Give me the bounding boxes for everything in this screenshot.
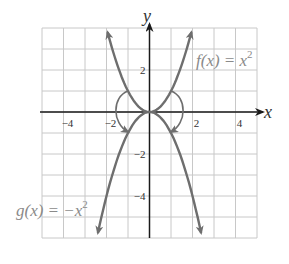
x-tick-label: 4: [237, 117, 243, 129]
x-axis-label: x: [263, 102, 272, 122]
x-tick-label: 2: [194, 117, 200, 129]
chart: −4−2242−2−4 x y f(x) = x2 g(x) = −x2: [0, 0, 289, 264]
y-tick-label: −2: [134, 148, 146, 160]
y-tick-label: 2: [140, 64, 146, 76]
y-tick-label: −4: [134, 190, 146, 202]
f-label: f(x) = x2: [196, 48, 253, 70]
x-tick-label: −2: [105, 117, 117, 129]
x-tick-label: −4: [62, 117, 74, 129]
g-label: g(x) = −x2: [16, 198, 88, 220]
y-axis-label: y: [141, 6, 151, 26]
